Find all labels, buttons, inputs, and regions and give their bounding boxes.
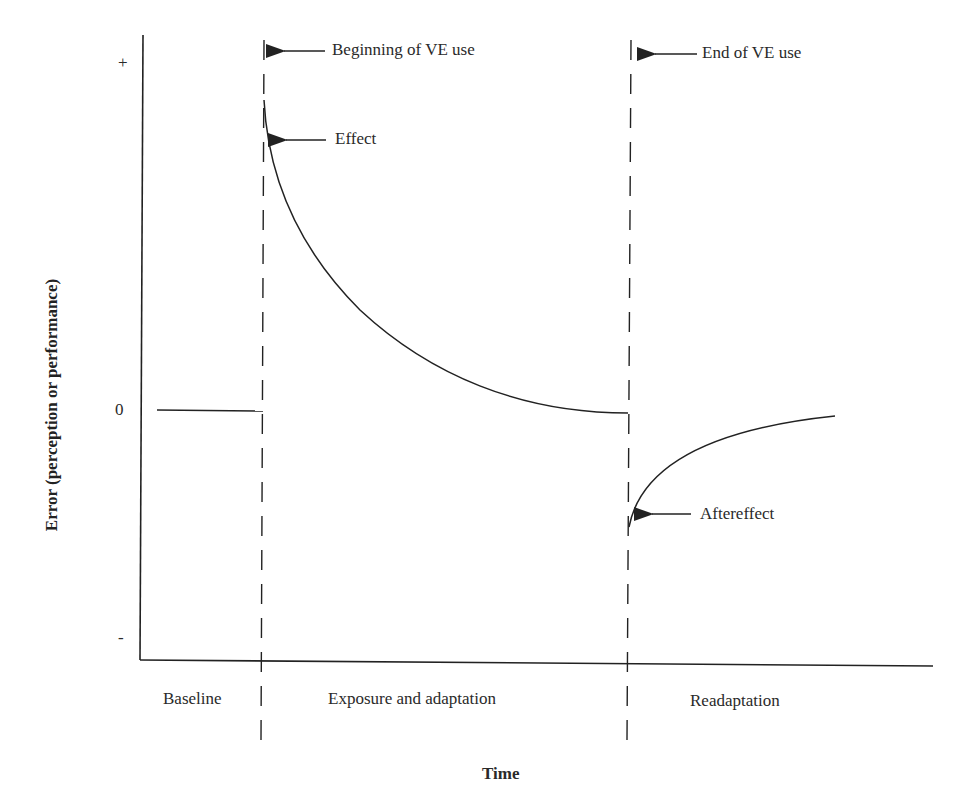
chart-canvas bbox=[0, 0, 979, 801]
x-axis-title: Time bbox=[482, 764, 519, 784]
y-tick-minus: - bbox=[118, 628, 124, 648]
end-label: End of VE use bbox=[702, 43, 801, 63]
x-axis bbox=[140, 660, 933, 666]
y-tick-zero: 0 bbox=[115, 400, 124, 420]
error-curve-baseline bbox=[157, 410, 263, 411]
y-axis-title: Error (perception or performance) bbox=[42, 279, 62, 531]
aftereffect-label: Aftereffect bbox=[700, 504, 774, 524]
phase-baseline: Baseline bbox=[163, 689, 222, 709]
y-tick-plus: + bbox=[118, 53, 128, 73]
end-ve-divider bbox=[627, 40, 631, 740]
error-curve-exposure bbox=[264, 100, 628, 413]
phase-readaptation: Readaptation bbox=[690, 691, 780, 711]
begin-ve-divider bbox=[261, 40, 264, 740]
beginning-label: Beginning of VE use bbox=[332, 40, 475, 60]
effect-label: Effect bbox=[335, 129, 376, 149]
y-axis bbox=[140, 35, 143, 660]
phase-exposure: Exposure and adaptation bbox=[328, 689, 496, 709]
